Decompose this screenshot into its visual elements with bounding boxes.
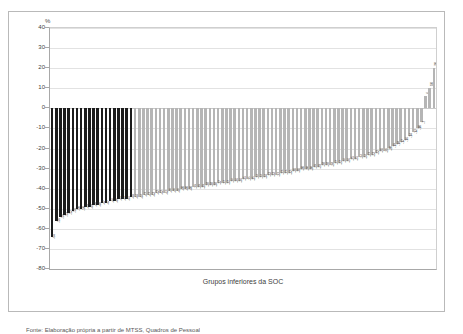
bar: -45 — [125, 28, 128, 269]
bar: -20 — [387, 28, 390, 269]
bar-rect — [229, 108, 232, 180]
bar: -53 — [63, 28, 66, 269]
bar-rect — [184, 108, 187, 188]
bar-rect — [134, 108, 137, 196]
bar: -37 — [217, 28, 220, 269]
bar-rect — [250, 108, 253, 178]
bar-rect — [262, 108, 265, 176]
y-axis-tick-label: 40 — [21, 24, 45, 30]
bar: -22 — [375, 28, 378, 269]
bar: -28 — [329, 28, 332, 269]
bar-rect — [379, 108, 382, 150]
bar-rect — [67, 108, 70, 212]
bar: -29 — [312, 28, 315, 269]
bar-value-label: 20 — [435, 62, 437, 66]
bar-rect — [59, 108, 62, 216]
bar-rect — [345, 108, 348, 160]
bar-rect — [217, 108, 220, 182]
bar-rect — [329, 108, 332, 164]
bar-rect — [200, 108, 203, 186]
bar: -41 — [167, 28, 170, 269]
bar-rect — [383, 108, 386, 150]
bar: -35 — [246, 28, 249, 269]
bar: -7 — [420, 28, 423, 269]
bar-rect — [287, 108, 290, 172]
bar: -14 — [408, 28, 411, 269]
bar: -44 — [130, 28, 133, 269]
bar: -30 — [300, 28, 303, 269]
bar: -10 — [416, 28, 419, 269]
y-axis-unit-label: % — [45, 18, 50, 24]
bar: -16 — [404, 28, 407, 269]
bar: -33 — [267, 28, 270, 269]
bar: -52 — [67, 28, 70, 269]
bar: -37 — [225, 28, 228, 269]
bar-rect — [179, 108, 182, 188]
bar: -40 — [184, 28, 187, 269]
bar-rect — [300, 108, 303, 168]
bar-rect — [130, 108, 133, 196]
bar-rect — [117, 108, 120, 198]
bar-rect — [316, 108, 319, 166]
bar: -25 — [354, 28, 357, 269]
bar-rect — [155, 108, 158, 192]
bar: -28 — [321, 28, 324, 269]
bar-rect — [283, 108, 286, 172]
bar: -44 — [134, 28, 137, 269]
bar-rect — [433, 68, 436, 108]
bar: -43 — [150, 28, 153, 269]
bar-rect — [96, 108, 99, 204]
bar: -18 — [395, 28, 398, 269]
y-axis-tick-label: 30 — [21, 44, 45, 50]
bar: -36 — [229, 28, 232, 269]
bar-rect — [51, 108, 54, 237]
bar: -34 — [254, 28, 257, 269]
bar-rect — [138, 108, 141, 196]
gridline--80 — [50, 269, 436, 270]
bar-rect — [80, 108, 83, 208]
bar-rect — [159, 108, 162, 192]
bar: -41 — [171, 28, 174, 269]
bar: -31 — [292, 28, 295, 269]
bar-rect — [213, 108, 216, 184]
bar-rect — [221, 108, 224, 182]
bar-rect — [341, 108, 344, 160]
bar: -30 — [308, 28, 311, 269]
bar-rect — [404, 108, 407, 140]
bar: -44 — [138, 28, 141, 269]
bar-rect — [121, 108, 124, 198]
bar-rect — [84, 108, 87, 206]
bar: -23 — [370, 28, 373, 269]
y-axis-tick-label: -30 — [21, 165, 45, 171]
bar: -42 — [159, 28, 162, 269]
bar-rect — [391, 108, 394, 146]
bar-rect — [233, 108, 236, 180]
bar: -27 — [337, 28, 340, 269]
bar-rect — [428, 88, 431, 108]
bar: -42 — [163, 28, 166, 269]
bar: -47 — [105, 28, 108, 269]
bar-rect — [55, 108, 58, 220]
bar: -40 — [179, 28, 182, 269]
bar-rect — [350, 108, 353, 158]
plot-area: -64-56-54-53-52-51-50-50-49-49-48-48-47-… — [49, 27, 437, 270]
bar: -49 — [88, 28, 91, 269]
bar-rect — [366, 108, 369, 154]
bar-rect — [354, 108, 357, 158]
bar-rect — [275, 108, 278, 174]
bar: -30 — [304, 28, 307, 269]
figure-caption: Fonte: Elaboração própria a partir de MT… — [26, 327, 200, 334]
bar-rect — [375, 108, 378, 152]
bar: -45 — [121, 28, 124, 269]
bar: -33 — [275, 28, 278, 269]
bar: -33 — [271, 28, 274, 269]
bar-rect — [63, 108, 66, 214]
bar: -31 — [296, 28, 299, 269]
bar: -48 — [92, 28, 95, 269]
bar: -21 — [383, 28, 386, 269]
bar: -24 — [362, 28, 365, 269]
y-axis-tick-label: -70 — [21, 245, 45, 251]
bar-rect — [76, 108, 79, 208]
x-axis-title: Grupos inferiores da SOC — [49, 278, 437, 285]
bar: 20 — [433, 28, 436, 269]
